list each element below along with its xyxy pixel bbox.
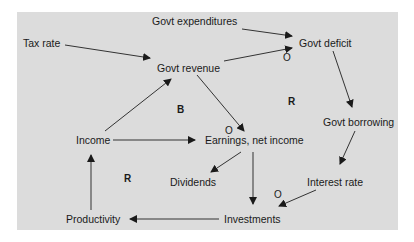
edge-revenue-earnings bbox=[197, 75, 244, 131]
node-tax-rate: Tax rate bbox=[23, 37, 60, 49]
node-govt-deficit: Govt deficit bbox=[299, 37, 352, 49]
node-income: Income bbox=[76, 134, 110, 146]
node-earnings-net-income: Earnings, net income bbox=[205, 134, 304, 146]
node-govt-borrowing: Govt borrowing bbox=[323, 116, 394, 128]
edge-earnings-dividends bbox=[211, 152, 241, 172]
polarity-mark-revenue-deficit: O bbox=[283, 52, 291, 63]
node-dividends: Dividends bbox=[170, 176, 216, 188]
loop-label-b: B bbox=[177, 104, 184, 115]
edge-revenue-deficit bbox=[224, 48, 292, 61]
loop-label-r-top: R bbox=[288, 96, 295, 107]
node-govt-revenue: Govt revenue bbox=[157, 62, 220, 74]
polarity-mark-interest-investments: O bbox=[274, 189, 282, 200]
node-govt-expenditures: Govt expenditures bbox=[152, 15, 237, 27]
edge-borrowing-interest bbox=[340, 131, 355, 164]
edge-income-revenue bbox=[105, 79, 171, 131]
node-investments: Investments bbox=[224, 213, 281, 225]
loop-label-r-bottom: R bbox=[124, 173, 131, 184]
edge-taxrate-revenue bbox=[65, 45, 150, 58]
edge-deficit-borrowing bbox=[333, 51, 352, 107]
node-productivity: Productivity bbox=[66, 213, 120, 225]
edge-interest-investments bbox=[279, 190, 316, 206]
edge-expenditures-deficit bbox=[242, 29, 292, 36]
polarity-mark-revenue-earnings: O bbox=[225, 125, 233, 136]
node-interest-rate: Interest rate bbox=[307, 176, 363, 188]
